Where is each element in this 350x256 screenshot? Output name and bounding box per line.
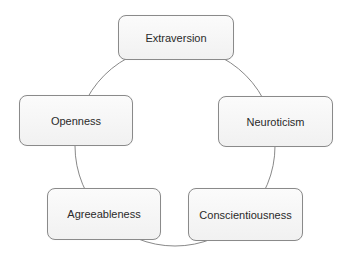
node-label: Agreeableness bbox=[67, 208, 140, 220]
node-label: Openness bbox=[51, 115, 101, 127]
node-label: Conscientiousness bbox=[199, 209, 291, 221]
node-label: Neuroticism bbox=[246, 116, 304, 128]
node-agreeableness: Agreeableness bbox=[47, 188, 161, 240]
node-extraversion: Extraversion bbox=[118, 15, 234, 60]
node-neuroticism: Neuroticism bbox=[218, 96, 333, 147]
node-label: Extraversion bbox=[145, 32, 206, 44]
node-openness: Openness bbox=[19, 95, 133, 146]
node-conscientiousness: Conscientiousness bbox=[188, 188, 303, 241]
